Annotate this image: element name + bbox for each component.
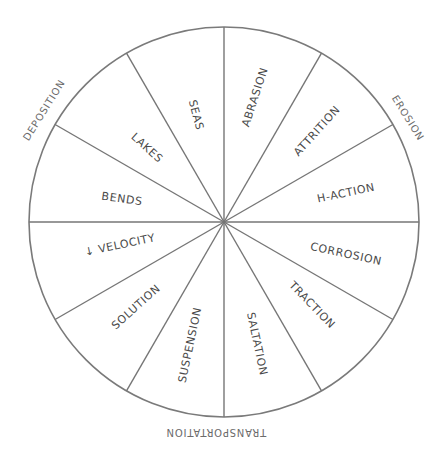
group-label-transportation: TRANSPORTATION [166,427,267,438]
process-wheel-diagram: SEASABRASIONATTRITIONH-ACTIONCORROSIONTR… [0,0,448,459]
